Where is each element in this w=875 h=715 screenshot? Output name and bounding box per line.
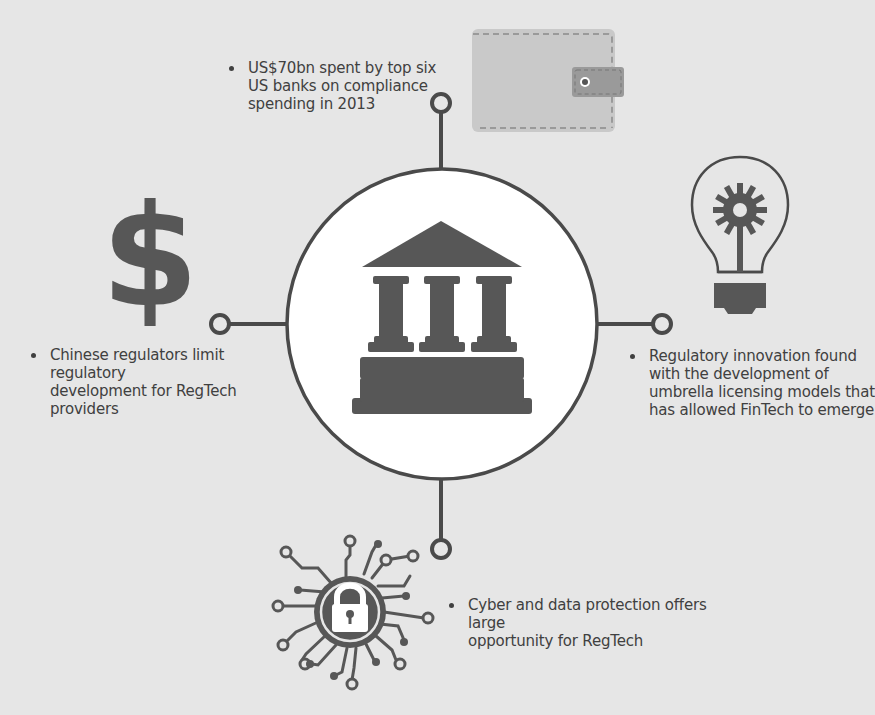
bullet-icon [449,603,454,608]
dollar-sign-icon: $ [101,175,198,338]
wallet-icon [472,29,624,132]
note-text: Cyber and data protection offers large o… [449,596,739,650]
note-text: Chinese regulators limit regulatory deve… [31,346,291,418]
connector-node-right [653,315,671,333]
bullet-icon [229,66,234,71]
note-compliance-spending: US$70bn spent by top six US banks on com… [229,59,449,113]
note-chinese-regulators: Chinese regulators limit regulatory deve… [31,346,291,418]
note-text: US$70bn spent by top six US banks on com… [229,59,449,113]
bullet-icon [31,353,36,358]
svg-text:$: $ [101,175,198,338]
bullet-icon [630,354,635,359]
circuit-padlock-icon [273,536,433,689]
note-text: Regulatory innovation found with the dev… [630,347,875,419]
note-cyber-protection: Cyber and data protection offers large o… [449,596,739,650]
connector-node-left [211,315,229,333]
note-regulatory-innovation: Regulatory innovation found with the dev… [630,347,875,419]
connector-node-bottom [432,540,450,558]
lightbulb-gear-icon [692,157,788,314]
